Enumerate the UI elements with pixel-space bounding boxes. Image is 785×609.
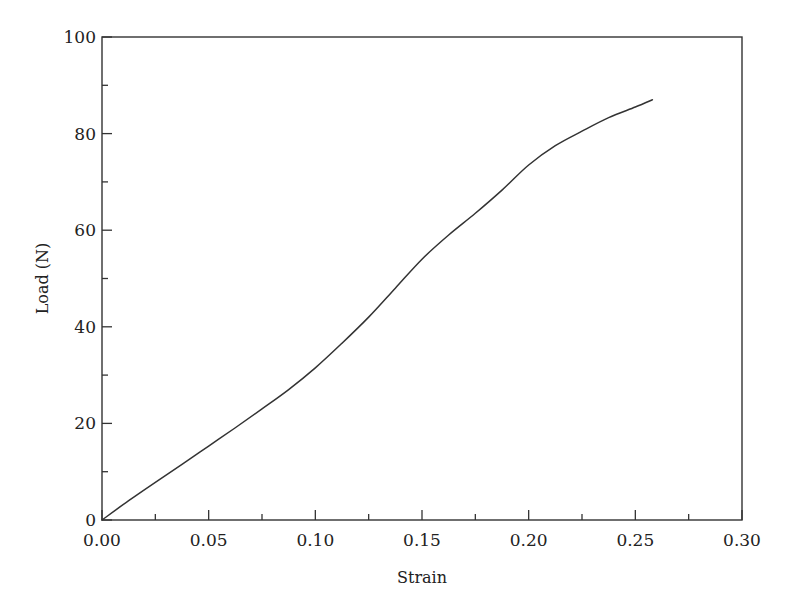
axis-ticks [102, 37, 742, 520]
x-tick-label: 0.25 [616, 530, 654, 550]
y-tick-label: 60 [74, 220, 96, 240]
x-tick-label: 0.00 [83, 530, 121, 550]
x-tick-label: 0.20 [510, 530, 548, 550]
load-strain-chart: 0.000.050.100.150.200.250.30020406080100… [0, 0, 785, 609]
data-series-layer [102, 100, 652, 520]
x-tick-label: 0.10 [296, 530, 334, 550]
y-tick-label: 80 [74, 124, 96, 144]
y-tick-label: 100 [64, 27, 96, 47]
x-tick-label: 0.30 [723, 530, 761, 550]
y-tick-label: 0 [85, 510, 96, 530]
y-tick-label: 20 [74, 413, 96, 433]
chart-canvas: 0.000.050.100.150.200.250.30020406080100… [0, 0, 785, 609]
x-tick-label: 0.15 [403, 530, 441, 550]
plot-frame [102, 37, 742, 520]
y-tick-label: 40 [74, 317, 96, 337]
y-axis-title: Load (N) [33, 243, 52, 315]
x-axis-title: Strain [397, 568, 447, 587]
tick-labels: 0.000.050.100.150.200.250.30020406080100 [64, 27, 761, 550]
x-tick-label: 0.05 [190, 530, 228, 550]
load-strain-curve [102, 100, 652, 520]
